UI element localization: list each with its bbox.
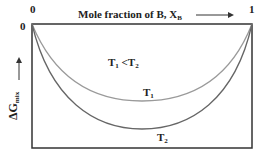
x-arrow-icon [228,12,234,18]
temperature-relation: T1 <T2 [108,57,139,70]
curve-t1-label: T1 [143,87,154,100]
x-tick-1: 1 [249,4,255,15]
y-axis-title: ΔGmix [6,92,21,120]
curve-t2 [32,24,252,129]
y-arrow-icon [16,57,22,63]
x-axis-title: Mole fraction of B, XB [78,9,182,22]
y-tick-0: 0 [20,21,26,32]
diagram-canvas [0,0,267,155]
curve-t2-label: T2 [157,132,168,145]
curve-t1 [32,24,252,101]
x-tick-0: 0 [30,4,36,15]
